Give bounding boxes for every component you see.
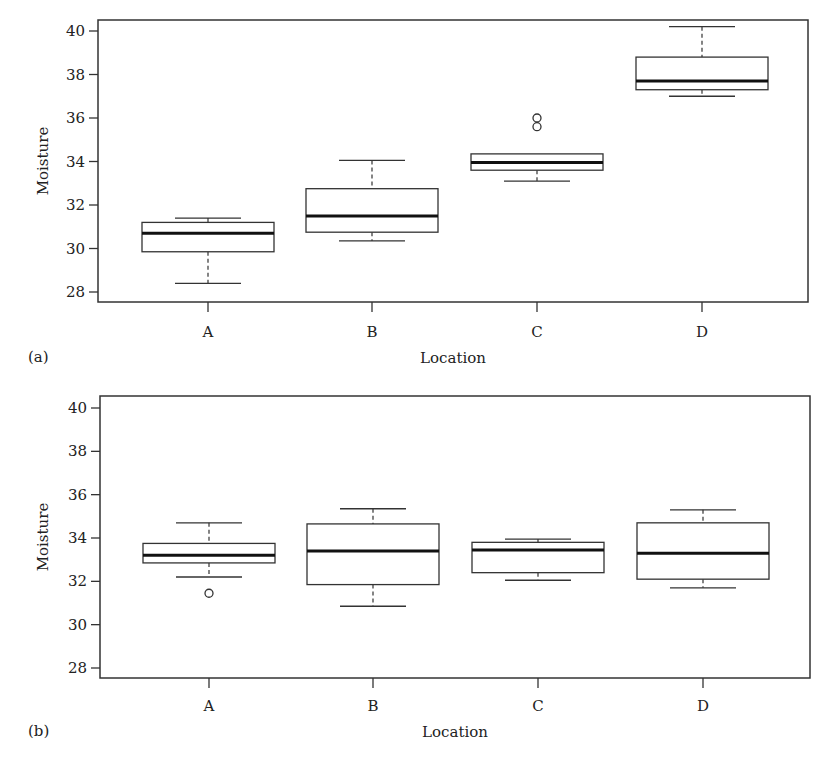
x-tick-label: C bbox=[531, 323, 542, 341]
iqr-box bbox=[306, 189, 438, 233]
box-c bbox=[471, 114, 603, 181]
panel-b: 28303234363840MoistureABCDLocation(b) bbox=[28, 396, 810, 741]
y-tick-label: 38 bbox=[68, 442, 87, 460]
x-tick-label: D bbox=[696, 323, 708, 341]
panel-label: (b) bbox=[28, 722, 49, 740]
x-axis-title: Location bbox=[422, 723, 488, 741]
iqr-box bbox=[636, 57, 768, 90]
y-tick-label: 30 bbox=[66, 240, 85, 258]
y-tick-label: 32 bbox=[68, 572, 87, 590]
outlier-point bbox=[205, 589, 213, 597]
x-tick-label: C bbox=[532, 697, 543, 715]
box-d bbox=[637, 510, 769, 588]
box-b bbox=[307, 509, 439, 607]
box-b bbox=[306, 160, 438, 240]
y-tick-label: 32 bbox=[66, 196, 85, 214]
y-tick-label: 28 bbox=[68, 659, 87, 677]
box-c bbox=[472, 539, 604, 580]
y-tick-label: 36 bbox=[68, 486, 87, 504]
x-tick-label: B bbox=[366, 323, 377, 341]
box-a bbox=[143, 523, 275, 597]
y-tick-label: 34 bbox=[68, 529, 87, 547]
iqr-box bbox=[142, 222, 274, 251]
y-axis-title: Moisture bbox=[34, 503, 52, 572]
x-tick-label: D bbox=[697, 697, 709, 715]
y-tick-label: 34 bbox=[66, 153, 85, 171]
outlier-point bbox=[533, 123, 541, 131]
y-tick-label: 30 bbox=[68, 616, 87, 634]
box-a bbox=[142, 218, 274, 283]
iqr-box bbox=[143, 543, 275, 563]
panel-label: (a) bbox=[28, 348, 49, 366]
y-axis-title: Moisture bbox=[34, 127, 52, 196]
y-tick-label: 38 bbox=[66, 66, 85, 84]
box-d bbox=[636, 27, 768, 97]
y-tick-label: 36 bbox=[66, 109, 85, 127]
y-tick-label: 40 bbox=[68, 399, 87, 417]
x-tick-label: A bbox=[203, 697, 215, 715]
y-tick-label: 28 bbox=[66, 283, 85, 301]
y-tick-label: 40 bbox=[66, 22, 85, 40]
x-axis-title: Location bbox=[420, 349, 486, 367]
outlier-point bbox=[533, 114, 541, 122]
panel-a: 28303234363840MoistureABCDLocation(a) bbox=[28, 20, 808, 367]
x-tick-label: A bbox=[202, 323, 214, 341]
iqr-box bbox=[637, 523, 769, 579]
iqr-box bbox=[307, 524, 439, 585]
x-tick-label: B bbox=[367, 697, 378, 715]
iqr-box bbox=[472, 542, 604, 572]
boxplot-figure: 28303234363840MoistureABCDLocation(a)283… bbox=[0, 0, 834, 768]
